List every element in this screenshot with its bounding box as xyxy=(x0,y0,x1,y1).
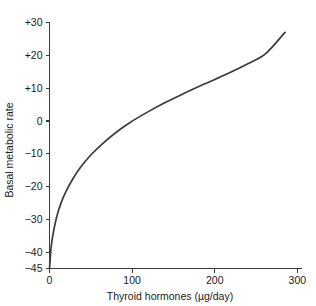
y-tick-label: +30 xyxy=(25,16,43,28)
x-tick-label: 0 xyxy=(47,274,53,286)
y-axis-group: +30+20+100−10−20−30−40−45 xyxy=(25,16,50,274)
y-axis-tick-labels: +30+20+100−10−20−30−40−45 xyxy=(25,16,43,274)
y-tick-label: −10 xyxy=(25,147,43,159)
chart-figure: +30+20+100−10−20−30−40−45 0100200300 Thy… xyxy=(0,0,316,306)
basal-metabolic-rate-plot: +30+20+100−10−20−30−40−45 0100200300 Thy… xyxy=(0,0,316,306)
data-curve xyxy=(50,32,285,268)
y-tick-label: −45 xyxy=(25,262,43,274)
x-tick-label: 300 xyxy=(289,274,307,286)
y-tick-label: −20 xyxy=(25,180,43,192)
y-axis-title: Basal metabolic rate xyxy=(3,102,15,197)
x-axis-group: 0100200300 xyxy=(47,269,307,286)
x-tick-label: 200 xyxy=(206,274,224,286)
x-axis-tick-labels: 0100200300 xyxy=(47,274,307,286)
y-tick-label: −40 xyxy=(25,246,43,258)
y-tick-label: −30 xyxy=(25,213,43,225)
y-tick-label: 0 xyxy=(37,115,43,127)
y-tick-label: +10 xyxy=(25,82,43,94)
x-axis-title: Thyroid hormones (µg/day) xyxy=(107,290,233,302)
y-tick-label: +20 xyxy=(25,49,43,61)
x-tick-label: 100 xyxy=(123,274,141,286)
